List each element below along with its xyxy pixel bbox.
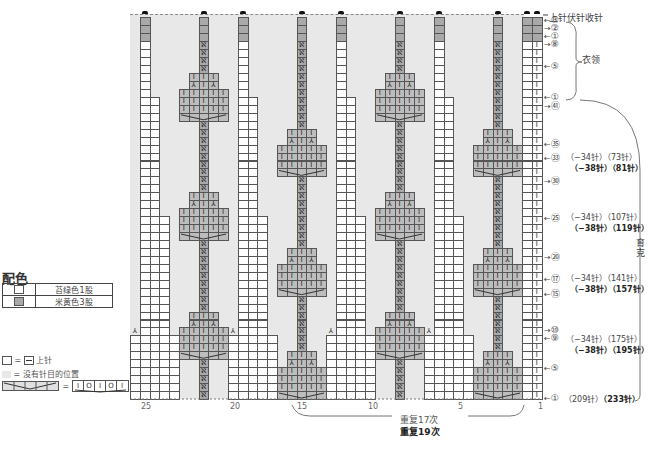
arrow-left-icon: ← (544, 290, 551, 299)
arrow-right-icon: → (544, 253, 551, 262)
row-marker: ←⑨ (544, 333, 559, 343)
count-b: （−38针）（195针） (570, 344, 649, 355)
row-marker: →⑳ (544, 250, 560, 263)
legend-label: 米黄色3股 (36, 296, 113, 308)
white-swatch-icon (14, 285, 24, 294)
svg-text:I: I (99, 382, 101, 390)
row-number: ⑨ (551, 333, 559, 343)
arrow-left-icon: ← (544, 214, 551, 223)
arrow-right-icon: → (544, 40, 551, 49)
shaded-square-icon (2, 371, 11, 378)
column-number: 1 (538, 402, 543, 411)
no-stitch-label: = 没有针目的位置 (14, 370, 79, 379)
count-b: （−38针）（157针） (570, 283, 649, 294)
color-legend: 苔绿色1股 米黄色3股 (2, 283, 113, 308)
purl-label: 上针 (36, 356, 52, 365)
arrow-right-icon: → (544, 177, 551, 186)
row-number: ㉝ (551, 153, 560, 163)
grey-swatch-icon (14, 297, 24, 306)
legend-label: 苔绿色1股 (36, 284, 113, 296)
count-b: （233针） (603, 395, 640, 404)
row-number: ㉕ (551, 213, 560, 223)
row-marker: ←⑤ (544, 61, 559, 71)
count-a: （−34针）（73针） (566, 151, 637, 162)
decrease-symbol-icon (2, 381, 60, 392)
arrow-left-icon: ← (544, 140, 551, 149)
row-number: ⑧ (551, 39, 559, 49)
equals-label: = (63, 382, 70, 391)
purl-symbol-icon (24, 356, 34, 365)
repeat-19-label: 重复19次 (400, 425, 440, 438)
row-marker: ←① (544, 393, 559, 403)
arrow-left-icon: ← (544, 364, 551, 373)
svg-text:I: I (77, 382, 79, 390)
row-number: ㉟ (551, 139, 560, 149)
arrow-right-icon: → (544, 102, 551, 111)
row-marker: ←⑤ (544, 363, 559, 373)
row-marker: ←㉕ (544, 211, 560, 224)
count-a: （209针） (564, 395, 603, 404)
collar-label: 衣领 (582, 53, 600, 66)
legend-row-moss: 苔绿色1股 (3, 284, 113, 296)
row-number: ㉚ (551, 176, 560, 186)
purl-legend: = 上针 (2, 354, 52, 365)
svg-text:O: O (108, 382, 114, 390)
no-stitch-legend: = 没有针目的位置 (2, 368, 79, 379)
row-number: ⑰ (551, 274, 560, 284)
arrow-left-icon: ← (544, 334, 551, 343)
decrease-expansion-icon: I O I O I (72, 380, 130, 393)
row-marker: ←㉟ (544, 137, 560, 150)
row-number: ⑤ (551, 363, 559, 373)
arrow-left-icon: ← (544, 154, 551, 163)
arrow-left-icon: ← (544, 62, 551, 71)
row-number: ① (551, 393, 559, 403)
stitch-count: （209针）（233针） (564, 393, 640, 404)
empty-square-icon (2, 356, 12, 365)
svg-text:I: I (121, 382, 123, 390)
row-number: ⑮ (551, 289, 560, 299)
count-a: （−34针）（107针） (566, 211, 642, 222)
row-marker: ←㉝ (544, 151, 560, 164)
row-number: ⑳ (551, 252, 560, 262)
row-marker: ←⑰ (544, 272, 560, 285)
row-marker: ←⑮ (544, 287, 560, 300)
row-marker: →㉚ (544, 174, 560, 187)
count-a: （−34针）（175针） (566, 333, 642, 344)
legend-row-beige: 米黄色3股 (3, 296, 113, 308)
arrow-left-icon: ← (544, 275, 551, 284)
column-number: 5 (458, 402, 463, 411)
row-marker: →㊶ (544, 99, 560, 112)
column-number: 25 (141, 402, 151, 411)
column-number: 15 (297, 402, 307, 411)
bind-off-label: 上针伏针收针 (549, 11, 603, 24)
decrease-legend: = I O I O I (2, 380, 130, 392)
count-a: （−34针）（141针） (566, 272, 642, 283)
row-number: ⑤ (551, 61, 559, 71)
column-number: 20 (230, 402, 240, 411)
count-b: （−38针）（119针） (570, 222, 649, 233)
column-number: 10 (368, 402, 378, 411)
row-number: ㊶ (551, 101, 560, 111)
row-marker: →⑧ (544, 39, 559, 49)
svg-text:O: O (86, 382, 92, 390)
yoke-label: 育克 (636, 238, 646, 258)
arrow-left-icon: ← (544, 394, 551, 403)
count-b: （−38针）（81针） (570, 162, 643, 173)
